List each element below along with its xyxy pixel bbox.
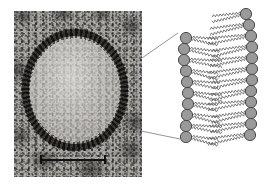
vesicle-membrane-texture xyxy=(21,28,129,152)
phospholipid-head xyxy=(245,96,256,107)
debris-blob xyxy=(114,139,142,161)
phospholipid-bilayer-diagram xyxy=(160,0,275,160)
hydrocarbon-tails-group xyxy=(189,12,248,146)
phospholipid-head xyxy=(244,129,255,140)
phospholipid-head xyxy=(245,118,256,129)
hydrocarbon-tail xyxy=(192,83,221,90)
hydrocarbon-tail xyxy=(193,94,222,103)
phospholipid-head xyxy=(178,54,189,65)
phospholipid-head xyxy=(246,41,257,52)
phospholipid-head xyxy=(245,30,256,41)
figure-container xyxy=(0,0,275,186)
liposome-vesicle xyxy=(22,29,128,151)
debris-blob xyxy=(118,15,142,37)
phospholipid-head xyxy=(178,43,189,54)
hydrocarbon-tail xyxy=(212,12,241,17)
hydrocarbon-tail xyxy=(193,105,219,112)
phospholipid-head xyxy=(246,52,257,63)
scale-bar xyxy=(40,155,106,164)
phospholipid-head xyxy=(240,8,251,19)
scale-bar-line xyxy=(40,159,106,161)
phospholipid-head xyxy=(180,120,191,131)
scale-bar-cap-right xyxy=(104,155,106,164)
phospholipid-head xyxy=(243,19,254,30)
phospholipid-head xyxy=(180,32,191,43)
phospholipid-head xyxy=(246,74,257,85)
phospholipid-head xyxy=(245,85,256,96)
hydrocarbon-tail xyxy=(210,25,244,35)
phospholipid-head xyxy=(181,109,192,120)
phospholipid-head xyxy=(245,107,256,118)
phospholipid-head xyxy=(182,87,193,98)
phospholipid-head xyxy=(246,63,257,74)
hydrocarbon-tail xyxy=(191,39,219,46)
phospholipid-head xyxy=(181,76,192,87)
phospholipid-head xyxy=(180,131,191,142)
electron-micrograph xyxy=(14,11,142,177)
phospholipid-head xyxy=(180,65,191,76)
bilayer-svg xyxy=(160,0,275,160)
phospholipid-head xyxy=(182,98,193,109)
outer-leaflet xyxy=(178,32,193,142)
inner-leaflet xyxy=(240,8,257,140)
